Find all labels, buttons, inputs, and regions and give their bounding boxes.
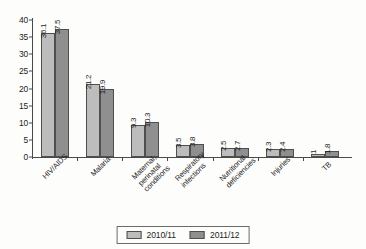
chart-legend: 2010/11 2011/12 — [117, 226, 250, 244]
bar-value-label: 3.8 — [188, 137, 197, 147]
x-axis-category: Respiratory infections — [167, 158, 212, 220]
bar-slot: 37.5 — [55, 20, 69, 157]
bar-slot: 1.8 — [325, 20, 339, 157]
bar-slot: 1 — [311, 20, 325, 157]
x-axis-category: Maternal, perinatal conditions — [122, 158, 167, 220]
bar-slot: 3.8 — [190, 20, 204, 157]
bar-group: 9.310.3 — [122, 20, 167, 157]
bar-value-label: 2.3 — [264, 142, 273, 152]
bar-group: 36.137.5 — [32, 20, 77, 157]
plot-area: 0510152025303540 36.137.521.219.99.310.3… — [32, 20, 348, 157]
bar-slot: 2.5 — [221, 20, 235, 157]
bar-group: 11.8 — [303, 20, 348, 157]
x-axis-category: HIV/AIDS — [32, 158, 77, 220]
bar-slot: 2.3 — [266, 20, 280, 157]
bar-value-label: 3.5 — [174, 138, 183, 148]
bar[interactable]: 36.1 — [41, 33, 55, 157]
bar-value-label: 36.1 — [39, 24, 48, 38]
legend-label-2010-11: 2010/11 — [147, 230, 176, 240]
bar-value-label: 1 — [309, 150, 318, 154]
bar-slot: 10.3 — [145, 20, 159, 157]
x-axis-category-label: Maternal, perinatal conditions — [130, 152, 172, 194]
x-axis-category: Malaria — [77, 158, 122, 220]
bar-value-label: 37.5 — [53, 19, 62, 33]
bar[interactable]: 37.5 — [55, 29, 69, 157]
x-axis-category-label: Injuries — [270, 156, 293, 179]
x-axis-category-labels: HIV/AIDSMalariaMaternal, perinatal condi… — [32, 158, 348, 220]
bar-groups: 36.137.521.219.99.310.33.53.82.52.72.32.… — [32, 20, 348, 157]
bar-group: 2.52.7 — [213, 20, 258, 157]
legend-item-series-0[interactable]: 2010/11 — [127, 230, 176, 240]
legend-swatch-2011-12 — [190, 231, 205, 239]
x-axis-category: Nutritional deficiencies — [213, 158, 258, 220]
bar-value-label: 2.5 — [219, 141, 228, 151]
bar[interactable]: 19.9 — [100, 89, 114, 157]
bar-value-label: 10.3 — [143, 113, 152, 127]
bar-value-label: 19.9 — [98, 80, 107, 94]
x-axis-category-label: TB — [321, 161, 334, 174]
bar-group: 21.219.9 — [77, 20, 122, 157]
bar-chart: 0510152025303540 36.137.521.219.99.310.3… — [0, 0, 366, 249]
legend-label-2011-12: 2011/12 — [210, 230, 239, 240]
bar-slot: 2.4 — [280, 20, 294, 157]
bar-value-label: 21.2 — [84, 75, 93, 89]
legend-swatch-2010-11 — [127, 231, 142, 239]
bar-slot: 2.7 — [235, 20, 249, 157]
legend-item-series-1[interactable]: 2011/12 — [190, 230, 239, 240]
x-axis-category: Injuries — [258, 158, 303, 220]
bar-group: 2.32.4 — [258, 20, 303, 157]
x-axis-category: TB — [303, 158, 348, 220]
bar-slot: 19.9 — [100, 20, 114, 157]
bar[interactable]: 9.3 — [131, 125, 145, 157]
bar-group: 3.53.8 — [167, 20, 212, 157]
bar-value-label: 9.3 — [129, 118, 138, 128]
x-axis-category-label: Malaria — [89, 155, 112, 178]
bar[interactable]: 1.8 — [325, 151, 339, 157]
bar[interactable]: 21.2 — [86, 84, 100, 157]
x-axis-category-label: HIV/AIDS — [41, 153, 69, 181]
bar-value-label: 2.7 — [233, 141, 242, 151]
bar-value-label: 2.4 — [278, 142, 287, 152]
bar-slot: 36.1 — [41, 20, 55, 157]
bar-value-label: 1.8 — [323, 144, 332, 154]
bar-slot: 9.3 — [131, 20, 145, 157]
bar[interactable]: 10.3 — [145, 122, 159, 157]
